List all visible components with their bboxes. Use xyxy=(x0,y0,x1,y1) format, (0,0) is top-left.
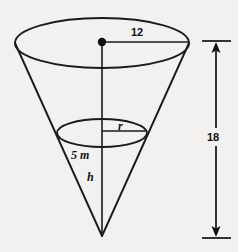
cone-left-side xyxy=(15,43,102,236)
label-height: h xyxy=(87,170,94,184)
center-point-dot xyxy=(98,38,106,46)
label-total-height: 18 xyxy=(207,131,219,143)
cone-diagram-svg: 12 r 5 m h 18 xyxy=(0,0,238,252)
geometry-figure: 12 r 5 m h 18 xyxy=(0,0,238,252)
label-slant-side: 5 m xyxy=(71,148,89,162)
label-top-radius: 12 xyxy=(131,26,143,38)
cone-right-side xyxy=(102,43,189,236)
label-inner-radius: r xyxy=(118,119,123,133)
